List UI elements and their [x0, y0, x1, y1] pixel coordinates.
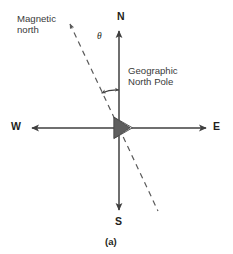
compass-direction-south-label: S: [115, 215, 122, 227]
compass-direction-east-label: E: [213, 120, 220, 132]
needle-dark-half: [114, 117, 130, 138]
compass-declination-figure: Magnetic north Geographic North Pole θ N…: [0, 0, 233, 254]
compass-needle: [114, 117, 133, 138]
geographic-north-pole-label: Geographic North Pole: [128, 65, 178, 88]
angle-arc-path: [102, 90, 119, 93]
theta-angle-label: θ: [97, 31, 102, 42]
magnetic-line-upper-arrow: [70, 24, 119, 128]
magnetic-line-lower-segment: [119, 128, 158, 211]
magnetic-north-label: Magnetic north: [17, 13, 56, 36]
compass-direction-north-label: N: [117, 10, 125, 22]
declination-angle-arc: [102, 90, 119, 93]
figure-caption: (a): [105, 236, 117, 247]
compass-direction-west-label: W: [11, 120, 21, 132]
